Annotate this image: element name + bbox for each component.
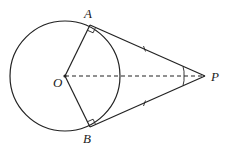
label-a: A xyxy=(83,6,92,21)
segment-ob xyxy=(65,76,90,127)
center-point-o xyxy=(63,74,66,77)
angle-arc-apo xyxy=(183,67,184,77)
angle-arc-opb xyxy=(183,76,184,86)
label-p: P xyxy=(210,69,219,84)
label-b: B xyxy=(83,131,91,146)
tangent-pa xyxy=(90,25,205,76)
segment-oa xyxy=(65,25,90,76)
tangent-diagram: A B O P xyxy=(0,0,236,149)
tangent-pb xyxy=(90,76,205,127)
label-o: O xyxy=(53,75,63,90)
